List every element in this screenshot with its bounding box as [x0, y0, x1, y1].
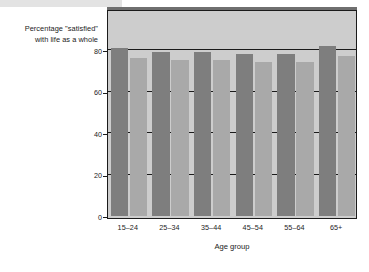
x-tick-label-25–34: 25–34 [149, 223, 191, 232]
y-axis-title-line-1: Percentage "satisfied" [0, 24, 98, 35]
y-tick-mark-0 [103, 217, 107, 218]
y-tick-mark-60 [103, 93, 107, 94]
bar-15–24-series-1 [111, 48, 129, 216]
top-left-swatch [0, 0, 122, 7]
y-tick-label-80: 80 [74, 47, 102, 56]
bar-65+-series-1 [319, 46, 337, 216]
x-tick-label-35–44: 35–44 [190, 223, 232, 232]
x-tick-label-65+: 65+ [315, 223, 357, 232]
bar-45–54-series-2 [255, 62, 273, 216]
x-tick-label-15–24: 15–24 [107, 223, 149, 232]
y-tick-label-0: 0 [74, 213, 102, 222]
bar-35–44-series-2 [213, 60, 231, 216]
y-tick-label-60: 60 [74, 88, 102, 97]
y-axis-title: Percentage "satisfied" with life as a wh… [0, 24, 98, 45]
bar-15–24-series-2 [130, 58, 148, 216]
x-tick-label-55–64: 55–64 [274, 223, 316, 232]
y-tick-label-40: 40 [74, 130, 102, 139]
y-axis-title-line-2: with life as a whole [0, 35, 98, 46]
y-tick-label-20: 20 [74, 171, 102, 180]
bar-55–64-series-2 [296, 62, 314, 216]
plot-area [107, 10, 357, 219]
y-tick-mark-20 [103, 176, 107, 177]
y-tick-mark-40 [103, 134, 107, 135]
bar-35–44-series-1 [194, 52, 212, 216]
x-axis-title: Age group [107, 242, 357, 251]
bar-25–34-series-2 [171, 60, 189, 216]
bar-45–54-series-1 [236, 54, 254, 216]
bar-25–34-series-1 [152, 52, 170, 216]
bar-65+-series-2 [338, 56, 356, 216]
bar-55–64-series-1 [277, 54, 295, 216]
y-tick-mark-80 [103, 51, 107, 52]
x-tick-label-45–54: 45–54 [232, 223, 274, 232]
